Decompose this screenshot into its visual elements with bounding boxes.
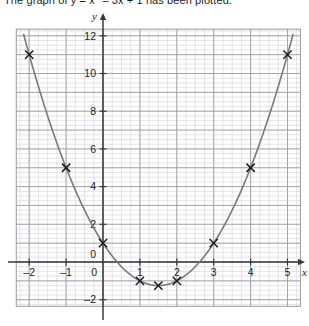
question-text-before: The graph of y = x [4,0,95,6]
x-tick-label: 2 [174,266,180,278]
x-axis-arrowhead [298,259,305,265]
y-tick-label: 10 [84,67,96,79]
x-tick-label: 4 [248,266,254,278]
y-tick-label: 12 [84,30,96,42]
y-tick-label: 8 [90,105,96,117]
question-text-after: – 3x + 1 has been plotted. [99,0,232,6]
question-prompt: The graph of y = x2 – 3x + 1 has been pl… [4,0,232,6]
x-axis-name: x [301,266,307,278]
y-tick-label: –2 [84,293,96,305]
x-tick-label: 5 [285,266,291,278]
y-tick-label: 6 [90,143,96,155]
y-axis-name: y [91,10,97,22]
graph-figure: The graph of y = x2 – 3x + 1 has been pl… [0,0,309,326]
x-tick-label: 3 [211,266,217,278]
x-tick-label: –2 [23,266,35,278]
coordinate-plane: –2–1012345 –2024681012 yx [0,0,309,326]
x-tick-label: –1 [60,266,72,278]
y-tick-label: 4 [90,180,96,192]
y-tick-label: 0 [90,248,96,260]
x-tick-label: 1 [137,266,143,278]
x-tick-label: 0 [91,266,97,278]
y-axis-arrowhead [100,13,106,20]
